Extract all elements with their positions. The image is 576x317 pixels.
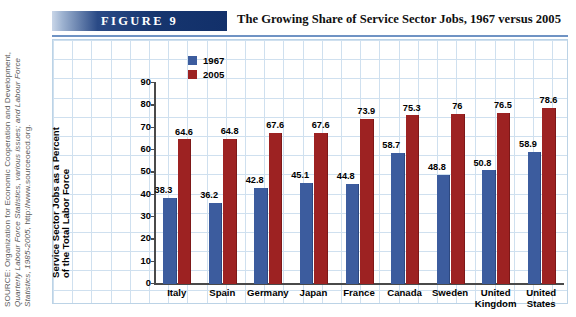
y-axis-tick-mark: [151, 283, 155, 284]
bar-value-label: 64.8: [213, 126, 247, 136]
bar-sweden-2005: [451, 114, 465, 284]
source-note-line-2: Quarterly Labour Force Statistics, vario…: [13, 58, 22, 307]
y-axis-tick-mark: [151, 171, 155, 172]
bar-united-kingdom-2005: [497, 113, 511, 284]
y-axis-tick-mark: [151, 127, 155, 128]
y-axis-tick-mark: [151, 82, 155, 83]
source-note-line-3-italic: Statistics, 1985-2005,: [23, 227, 32, 307]
bar-france-1967: [346, 184, 360, 284]
x-axis-category-label: France: [336, 287, 382, 298]
bar-value-label: 73.9: [349, 106, 383, 116]
bar-japan-2005: [314, 133, 328, 284]
bar-united-states-2005: [542, 108, 556, 284]
bar-germany-2005: [269, 133, 283, 284]
x-axis-category-label: Sweden: [427, 287, 473, 298]
x-axis-category-label: Canada: [382, 287, 428, 298]
bar-sweden-1967: [437, 175, 451, 284]
bar-value-label: 76: [440, 101, 474, 111]
source-note-url: http://www.sourceoecd.org.: [23, 124, 32, 227]
bar-value-label: 76.5: [486, 100, 520, 110]
header-divider: [52, 35, 568, 37]
bar-spain-2005: [223, 139, 237, 284]
bar-value-label: 64.6: [167, 127, 201, 137]
bar-united-kingdom-1967: [482, 170, 496, 283]
figure-panel: FIGURE 9 The Growing Share of Service Se…: [47, 7, 571, 310]
bar-value-label: 67.6: [304, 120, 338, 130]
bar-france-2005: [360, 119, 374, 284]
bar-value-label: 67.6: [258, 120, 292, 130]
x-axis-category-label: Germany: [245, 287, 291, 298]
source-note-line-3: Statistics, 1985-2005, http://www.source…: [23, 124, 32, 307]
x-axis-category-label-line: Spain: [200, 287, 246, 298]
x-axis-category-label-line: Canada: [382, 287, 428, 298]
x-axis-category-label: UnitedStates: [518, 287, 564, 309]
bar-canada-2005: [406, 115, 420, 283]
x-axis-category-label-line: Germany: [245, 287, 291, 298]
y-axis-tick-mark: [151, 261, 155, 262]
x-axis-category-label-line: Japan: [291, 287, 337, 298]
bar-value-label: 44.8: [329, 171, 363, 181]
figure-title: The Growing Share of Service Sector Jobs…: [237, 12, 561, 27]
bar-canada-1967: [391, 153, 405, 284]
source-note-line-1: SOURCE: Organization for Economic Cooper…: [3, 52, 12, 307]
x-axis-category-label-line: Sweden: [427, 287, 473, 298]
bar-value-label: 42.8: [238, 175, 272, 185]
bar-value-label: 75.3: [395, 103, 429, 113]
source-note: SOURCE: Organization for Economic Cooper…: [0, 0, 50, 317]
y-axis-tick-mark: [151, 194, 155, 195]
bar-value-label: 48.8: [420, 162, 454, 172]
bar-value-label: 58.7: [374, 140, 408, 150]
bar-value-label: 36.2: [192, 190, 226, 200]
bar-italy-1967: [163, 198, 177, 284]
plot-area: Service Sector Jobs as a Percent of the …: [52, 39, 568, 304]
bar-germany-1967: [254, 188, 268, 284]
x-axis-category-label: UnitedKingdom: [473, 287, 519, 309]
figure-number-badge: FIGURE 9: [52, 11, 227, 31]
x-axis-category-label: Spain: [200, 287, 246, 298]
y-axis-tick-mark: [151, 149, 155, 150]
y-axis-tick-mark: [151, 238, 155, 239]
bars-layer: 38.364.6Italy36.264.8Spain42.867.6German…: [53, 40, 569, 305]
x-axis-category-label-line: United: [473, 287, 519, 298]
x-axis-category-label-line: States: [518, 298, 564, 309]
bar-spain-1967: [209, 203, 223, 284]
bar-value-label: 45.1: [283, 170, 317, 180]
figure-header: FIGURE 9 The Growing Share of Service Se…: [47, 11, 571, 37]
bar-united-states-1967: [528, 152, 542, 284]
x-axis-category-label-line: Kingdom: [473, 298, 519, 309]
bar-value-label: 78.6: [531, 95, 565, 105]
x-axis-category-label: Italy: [154, 287, 200, 298]
x-axis-category-label-line: Italy: [154, 287, 200, 298]
bar-japan-1967: [300, 183, 314, 284]
y-axis-tick-mark: [151, 216, 155, 217]
bar-value-label: 58.9: [511, 139, 545, 149]
x-axis-category-label: Japan: [291, 287, 337, 298]
bar-value-label: 50.8: [465, 158, 499, 168]
x-axis-category-label-line: United: [518, 287, 564, 298]
bar-italy-2005: [178, 139, 192, 283]
x-axis-category-label-line: France: [336, 287, 382, 298]
y-axis-tick-mark: [151, 104, 155, 105]
